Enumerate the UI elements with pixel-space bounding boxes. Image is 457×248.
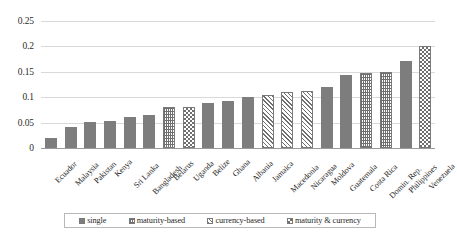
bar-slot xyxy=(277,21,297,148)
bar[interactable] xyxy=(321,87,333,148)
bar[interactable] xyxy=(124,117,136,148)
x-axis-labels: EcuadorMalaysiaPakistanKenyaSri LankaBan… xyxy=(41,150,435,204)
bar-slot xyxy=(41,21,61,148)
bar[interactable] xyxy=(104,121,116,148)
bar-series xyxy=(41,21,435,148)
bar[interactable] xyxy=(222,101,234,148)
bar-slot xyxy=(317,21,337,148)
bar[interactable] xyxy=(380,72,392,148)
bar[interactable] xyxy=(400,61,412,148)
bar[interactable] xyxy=(202,103,214,148)
y-axis-tick-label: 0 xyxy=(29,143,34,153)
bar[interactable] xyxy=(65,127,77,148)
bar[interactable] xyxy=(242,97,254,148)
x-axis-tick-label: Ghana xyxy=(231,157,252,178)
gridline xyxy=(41,148,435,149)
y-axis-tick-label: 0.2 xyxy=(22,41,34,51)
bar[interactable] xyxy=(281,92,293,148)
legend-swatch-icon xyxy=(207,218,213,224)
bar-slot xyxy=(356,21,376,148)
bar[interactable] xyxy=(84,122,96,148)
bar[interactable] xyxy=(143,115,155,148)
y-axis: 00.050.10.150.20.25 xyxy=(0,21,38,148)
x-axis-tick-label: Belarus xyxy=(172,159,196,183)
bar-slot xyxy=(415,21,435,148)
legend-swatch-icon xyxy=(79,218,85,224)
y-axis-tick-label: 0.15 xyxy=(18,67,34,77)
bar[interactable] xyxy=(419,46,431,148)
bar[interactable] xyxy=(262,95,274,148)
x-axis-tick-label: Belize xyxy=(211,157,232,178)
bar[interactable] xyxy=(360,73,372,148)
y-axis-tick-label: 0.05 xyxy=(18,118,34,128)
bar-slot xyxy=(159,21,179,148)
legend-item[interactable]: maturity & currency xyxy=(287,216,361,225)
bar[interactable] xyxy=(183,107,195,148)
bar-slot xyxy=(80,21,100,148)
bar[interactable] xyxy=(163,107,175,148)
legend-swatch-icon xyxy=(287,218,293,224)
x-axis-tick-label: Kenya xyxy=(113,157,134,178)
legend-label: currency-based xyxy=(215,216,264,225)
bar-slot xyxy=(396,21,416,148)
bar-slot xyxy=(297,21,317,148)
bar-slot xyxy=(140,21,160,148)
plot-area xyxy=(41,21,435,148)
bar[interactable] xyxy=(301,91,313,148)
legend-item[interactable]: maturity-based xyxy=(129,216,185,225)
bar-slot xyxy=(376,21,396,148)
x-axis-tick-label: Albania xyxy=(250,159,274,183)
bar-slot xyxy=(199,21,219,148)
bar-slot xyxy=(218,21,238,148)
legend-label: maturity-based xyxy=(137,216,185,225)
legend-item[interactable]: currency-based xyxy=(207,216,264,225)
y-axis-tick-label: 0.1 xyxy=(22,92,34,102)
bar-slot xyxy=(120,21,140,148)
bar-slot xyxy=(238,21,258,148)
y-axis-tick-label: 0.25 xyxy=(18,16,34,26)
legend-label: maturity & currency xyxy=(295,216,361,225)
bar-slot xyxy=(258,21,278,148)
legend-swatch-icon xyxy=(129,218,135,224)
legend-label: single xyxy=(87,216,106,225)
bar-slot xyxy=(179,21,199,148)
bar-slot xyxy=(61,21,81,148)
bar-slot xyxy=(337,21,357,148)
legend-item[interactable]: single xyxy=(79,216,106,225)
bar-slot xyxy=(100,21,120,148)
chart-legend: singlematurity-basedcurrency-basedmaturi… xyxy=(64,213,376,228)
bar[interactable] xyxy=(45,138,57,148)
bar[interactable] xyxy=(340,75,352,148)
